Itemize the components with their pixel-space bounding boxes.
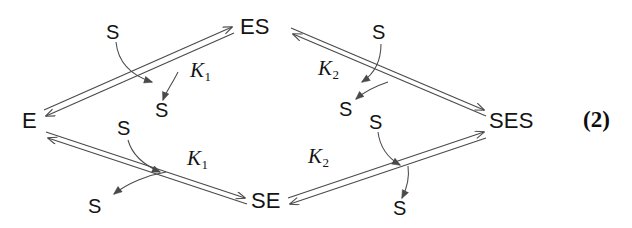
k1-upper-symbol: K bbox=[190, 58, 204, 82]
substrate-label-lower-right-out: S bbox=[393, 198, 406, 218]
equilibrium-constant-k1-lower: K1 bbox=[187, 148, 208, 171]
k1-lower-subscript: 1 bbox=[201, 157, 208, 172]
k2-upper-subscript: 2 bbox=[332, 67, 339, 82]
substrate-label-upper-left-out: S bbox=[155, 100, 168, 120]
substrate-label-upper-right-out: S bbox=[339, 99, 352, 119]
curve-substrate-out-upper-left bbox=[163, 72, 178, 100]
reaction-scheme-diagram: E ES SE SES K1 K2 K1 K2 S S S S S S S S … bbox=[0, 0, 632, 228]
node-label-substrate-enzyme-bottom: SE bbox=[251, 190, 281, 212]
reaction-arrows-layer bbox=[0, 0, 632, 228]
arrow-e-to-se bbox=[46, 132, 245, 198]
curve-substrate-out-upper-right bbox=[356, 82, 388, 99]
equation-number: (2) bbox=[583, 108, 610, 131]
curve-substrate-in-lower-right bbox=[378, 132, 400, 165]
curve-substrate-out-lower-left bbox=[114, 172, 166, 194]
equilibrium-constant-k1-upper: K1 bbox=[190, 60, 211, 83]
node-label-enzyme-substrate-top: ES bbox=[240, 16, 270, 38]
substrate-label-upper-left-in: S bbox=[106, 22, 119, 42]
k1-upper-subscript: 1 bbox=[204, 69, 211, 84]
substrate-label-lower-right-in: S bbox=[369, 112, 382, 132]
substrate-label-lower-left-in: S bbox=[117, 118, 130, 138]
equilibrium-constant-k2-upper: K2 bbox=[318, 58, 339, 81]
curve-substrate-in-lower-left bbox=[128, 140, 160, 172]
k2-lower-subscript: 2 bbox=[322, 155, 329, 170]
equilibrium-constant-k2-lower: K2 bbox=[308, 146, 329, 169]
arrow-se-to-e bbox=[48, 138, 247, 204]
substrate-label-lower-left-out: S bbox=[88, 196, 101, 216]
k2-lower-symbol: K bbox=[308, 144, 322, 168]
curve-substrate-out-lower-right bbox=[402, 166, 409, 198]
main-reversible-arrows bbox=[44, 27, 486, 204]
k1-lower-symbol: K bbox=[187, 146, 201, 170]
node-label-substrate-enzyme-substrate: SES bbox=[489, 110, 534, 132]
k2-upper-symbol: K bbox=[318, 56, 332, 80]
substrate-label-upper-right-in: S bbox=[372, 22, 385, 42]
node-label-enzyme: E bbox=[22, 110, 37, 132]
curve-substrate-in-upper-right bbox=[362, 44, 381, 82]
